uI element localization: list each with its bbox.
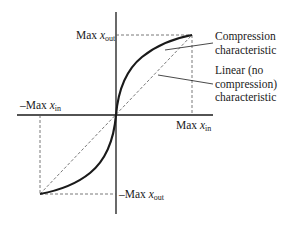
label-sub: out	[154, 193, 164, 202]
annotation-line: characteristic	[215, 44, 276, 58]
max-x-out-label: Max xout	[76, 29, 115, 41]
label-prefix: Max	[76, 29, 100, 41]
label-prefix: –Max	[20, 99, 50, 111]
annotation-line: characteristic	[215, 91, 277, 105]
annotation-line: Linear (no	[215, 64, 277, 78]
compression-leader-line	[165, 43, 213, 50]
linear-leader-line	[158, 75, 213, 84]
neg-max-x-in-label: –Max xin	[20, 99, 61, 111]
label-prefix: Max	[176, 119, 200, 131]
annotation-line: compression)	[215, 78, 277, 92]
label-sub: in	[55, 104, 61, 113]
label-sub: in	[205, 124, 211, 133]
label-sub: out	[105, 34, 115, 43]
compression-annotation: Compression characteristic	[215, 30, 276, 57]
max-x-in-label: Max xin	[176, 119, 211, 131]
linear-annotation: Linear (no compression) characteristic	[215, 64, 277, 105]
label-prefix: –Max	[119, 188, 149, 200]
neg-max-x-out-label: –Max xout	[119, 188, 164, 200]
annotation-line: Compression	[215, 30, 276, 44]
